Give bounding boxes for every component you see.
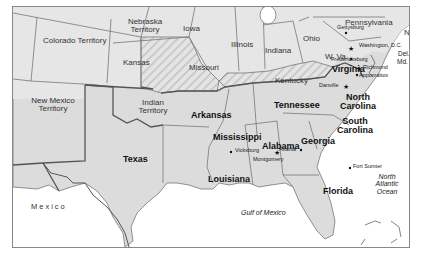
label-delaware: Del.: [398, 51, 410, 58]
label-north-atlantic-ocean: North Atlantic Ocean: [369, 173, 405, 195]
label-danville: Danville: [319, 83, 339, 89]
label-louisiana: Louisiana: [208, 175, 250, 184]
label-gettysburg: Gettysburg: [337, 25, 364, 31]
label-missouri: Missouri: [189, 64, 219, 72]
label-nj: N.J.: [404, 29, 410, 37]
label-ohio: Ohio: [303, 35, 320, 43]
label-mississippi: Mississippi: [213, 133, 262, 142]
bahamas-islands: [361, 221, 401, 245]
label-washington-dc: Washington, D.C.: [359, 43, 402, 49]
label-iowa: Iowa: [183, 25, 200, 33]
label-atlanta: Atlanta: [279, 147, 296, 153]
label-georgia: Georgia: [301, 137, 335, 146]
label-tennessee: Tennessee: [274, 101, 320, 110]
label-illinois: Illinois: [231, 41, 253, 49]
label-appomattox: Appomattox: [359, 73, 388, 79]
svg-text:★: ★: [348, 45, 354, 52]
label-richmond: Richmond: [363, 65, 388, 71]
label-texas: Texas: [123, 155, 148, 164]
label-kentucky: Kentucky: [275, 77, 308, 85]
label-maryland: Md.: [397, 59, 408, 66]
label-north-carolina: North Carolina: [337, 93, 379, 112]
civil-war-map: ★ ★ ★ ★ Colorado Territory Nebraska Terr…: [12, 6, 410, 248]
svg-text:★: ★: [343, 83, 349, 90]
label-vicksburg: Vicksburg: [235, 148, 259, 154]
label-arkansas: Arkansas: [191, 111, 232, 120]
label-colorado-territory: Colorado Territory: [43, 37, 106, 45]
label-fredericksburg: Fredericksburg: [331, 57, 368, 63]
label-indian-territory: Indian Territory: [133, 99, 173, 116]
label-indiana: Indiana: [265, 47, 291, 55]
label-kansas: Kansas: [123, 59, 150, 67]
label-south-carolina: South Carolina: [335, 117, 375, 136]
label-florida: Florida: [323, 187, 353, 196]
label-montgomery: Montgomery: [253, 157, 284, 163]
label-fort-sumter: Fort Sumter: [353, 164, 382, 170]
lake-michigan: [260, 7, 276, 24]
label-nebraska-territory: Nebraska Territory: [117, 18, 173, 35]
label-mexico: Mexico: [31, 203, 67, 211]
label-gulf-of-mexico: Gulf of Mexico: [241, 209, 286, 216]
label-new-mexico-territory: New Mexico Territory: [23, 97, 83, 114]
